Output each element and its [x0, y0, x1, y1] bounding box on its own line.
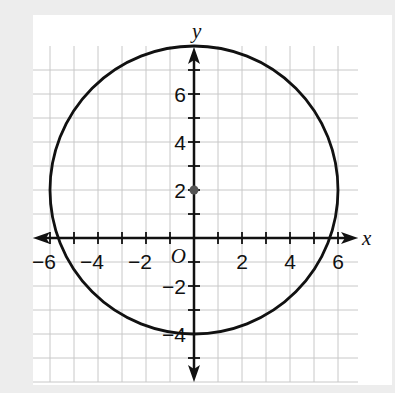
y-tick-label: 2: [174, 179, 186, 202]
origin-label: O: [171, 244, 186, 268]
coordinate-plane: −6−4−2246642−2−4Oxy: [0, 0, 395, 393]
x-tick-label: −6: [32, 250, 56, 273]
x-tick-label: 6: [332, 250, 344, 273]
y-tick-label: −4: [162, 323, 186, 346]
x-tick-label: 4: [284, 250, 296, 273]
y-tick-label: 6: [174, 83, 186, 106]
x-tick-label: −2: [128, 250, 152, 273]
center-point: [190, 186, 199, 195]
x-axis-label: x: [361, 226, 372, 250]
x-tick-label: −4: [80, 250, 104, 273]
x-tick-label: 2: [236, 250, 248, 273]
tick-labels: −6−4−2246642−2−4Oxy: [32, 19, 372, 346]
y-axis-label: y: [190, 19, 202, 43]
y-tick-label: −2: [162, 275, 186, 298]
y-tick-label: 4: [174, 131, 186, 154]
